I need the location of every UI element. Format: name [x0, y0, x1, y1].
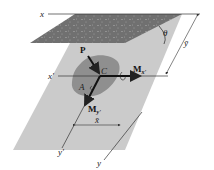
angle-label: θ [163, 28, 168, 38]
free-surface-axis-label: x [39, 9, 44, 19]
y-prime-label: y' [57, 147, 65, 157]
y-label: y [96, 158, 101, 168]
centroid-label: C [101, 66, 108, 76]
inclined-plane-diagram: x θ x' ȳ y' y x̄ P C A Mx' My' [0, 0, 214, 170]
area-label: A [78, 82, 85, 92]
x-prime-label: x' [47, 71, 55, 81]
x-bar-label: x̄ [94, 115, 100, 125]
y-bar-label: ȳ [183, 38, 189, 48]
force-label: P [80, 45, 86, 55]
